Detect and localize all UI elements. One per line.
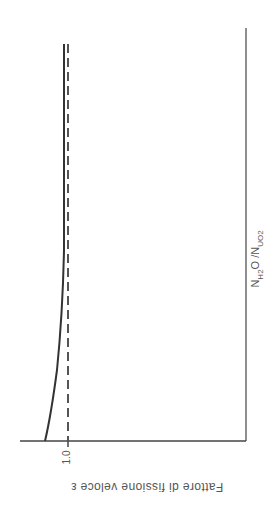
x-label-uo: UO	[256, 235, 265, 247]
y-tick-label-1-0: 1.0	[61, 451, 72, 465]
x-axis-label: NH2O /NUO2	[249, 198, 264, 288]
fast-fission-curve	[45, 44, 64, 441]
x-label-h: H	[256, 274, 265, 280]
x-label-mid: O /N	[249, 247, 261, 270]
chart-canvas	[0, 0, 276, 518]
x-label-n: N	[249, 280, 261, 288]
x-label-uo-2: 2	[256, 230, 265, 234]
y-axis-label: Fattore di fissione veloce ε	[52, 480, 242, 494]
x-label-h-2: 2	[256, 269, 265, 273]
